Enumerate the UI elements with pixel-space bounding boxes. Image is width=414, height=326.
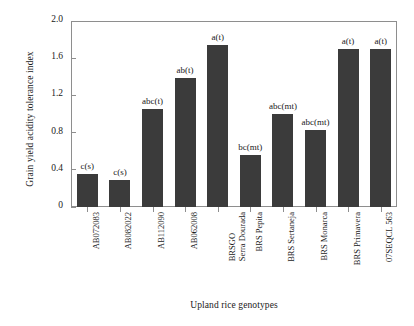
bar-annotation: a(t) [342,36,355,46]
bar-chart-figure: Grain yield acidity tolerance index 00.4… [0,0,414,326]
bar: bc(mt) [240,155,261,207]
y-tick-label: 0.8 [51,126,63,136]
bar-annotation: ab(t) [177,65,194,75]
x-tick-mark [316,207,317,212]
x-tick-label-line: AB082022 [124,212,134,249]
x-tick-label-line: AB112090 [157,212,167,249]
x-tick-mark [348,207,349,212]
x-tick-mark [283,207,284,212]
bar: abc(mt) [305,130,326,207]
x-tick-mark [87,207,88,212]
bar-rect [272,114,293,207]
y-tick-label: 1.2 [51,88,63,98]
x-tick-label-line: BRS Monarca [320,212,330,260]
bar: abc(mt) [272,114,293,207]
x-tick-mark [250,207,251,212]
x-tick-mark [120,207,121,212]
y-tick-mark [71,132,76,133]
bar-rect [240,155,261,207]
x-tick-mark [218,207,219,212]
y-tick-label: 0 [58,200,63,210]
bar-rect [207,45,228,207]
x-tick-label: BRSGOSerra Dourada [228,212,247,261]
x-tick-label-line: AB062008 [190,212,200,249]
x-tick-label: BRS Monarca [320,212,330,260]
bar-rect [370,49,391,207]
x-tick-label: 07SEQCL 563 [385,212,395,262]
bar-rect [338,49,359,207]
x-tick-label-line: BRS Pepita [255,212,265,251]
x-tick-mark [185,207,186,212]
bar: c(s) [109,180,130,207]
y-tick-label: 1.6 [51,51,63,61]
bar: a(t) [370,49,391,207]
x-tick-label-line: BRS Primavera [353,212,363,265]
x-tick-label-line: AB072083 [92,212,102,249]
x-tick-label-line: Serra Dourada [237,212,247,261]
bar-annotation: c(s) [81,161,95,171]
y-tick-mark [71,207,76,208]
y-axis-title: Grain yield acidity tolerance index [25,9,35,229]
bar: abc(t) [142,109,163,207]
y-tick-label: 2.0 [51,14,63,24]
bar-annotation: abc(mt) [269,101,297,111]
x-tick-label: AB082022 [124,212,134,249]
bar: ab(t) [175,78,196,207]
y-tick-label: 0.4 [51,163,63,173]
y-tick-mark [71,58,76,59]
y-tick-mark [71,21,76,22]
y-tick-mark [71,95,76,96]
bar: c(s) [77,174,98,207]
bar-annotation: abc(t) [142,96,163,106]
bar-annotation: a(t) [211,32,224,42]
x-tick-mark [153,207,154,212]
bar-rect [109,180,130,207]
x-tick-label: AB062008 [190,212,200,249]
bar-annotation: bc(mt) [238,142,262,152]
x-axis-title: Upland rice genotypes [71,300,397,310]
bar: a(t) [207,45,228,207]
bar-annotation: c(s) [113,167,127,177]
x-tick-label-line: BRSGO [228,212,238,261]
y-tick-mark [71,169,76,170]
x-tick-label: AB072083 [92,212,102,249]
bar-annotation: abc(mt) [302,117,330,127]
x-tick-label-line: 07SEQCL 563 [385,212,395,262]
bar-rect [77,174,98,207]
x-tick-label-line: BRS Sertaneja [287,212,297,262]
x-tick-label: BRS Pepita [255,212,265,251]
bar-rect [175,78,196,207]
bar-annotation: a(t) [374,36,387,46]
bar: a(t) [338,49,359,207]
x-tick-label: BRS Sertaneja [287,212,297,262]
bar-rect [142,109,163,207]
bar-rect [305,130,326,207]
x-tick-mark [381,207,382,212]
x-tick-label: BRS Primavera [353,212,363,265]
x-tick-label: AB112090 [157,212,167,249]
